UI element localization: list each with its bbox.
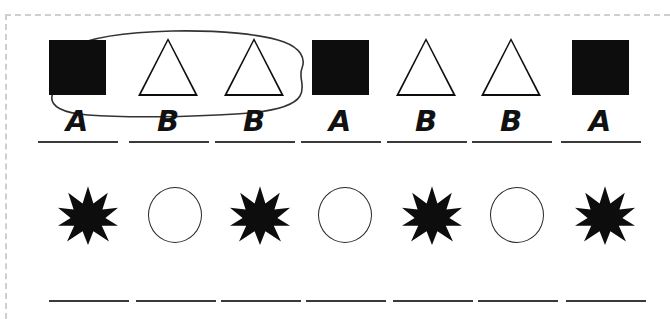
answer-letter <box>562 252 648 286</box>
outline-triangle-icon <box>211 28 297 106</box>
answer-line[interactable] <box>478 300 558 302</box>
pattern-cell: A <box>557 28 643 156</box>
filled-square-icon <box>557 28 643 106</box>
answer-line[interactable] <box>301 141 381 143</box>
answer-line[interactable] <box>472 141 552 143</box>
pattern-cell <box>45 176 131 319</box>
pattern-cell: B <box>125 28 211 156</box>
answer-letter: B <box>125 104 211 138</box>
pattern-cell <box>302 176 388 319</box>
pattern-cell: B <box>468 28 554 156</box>
pattern-cell: B <box>211 28 297 156</box>
outline-circle-icon <box>132 176 218 254</box>
answer-line[interactable] <box>49 300 129 302</box>
pattern-cell <box>389 176 475 319</box>
outline-circle-icon <box>302 176 388 254</box>
filled-star-icon <box>217 176 303 254</box>
answer-line[interactable] <box>221 300 301 302</box>
answer-letter <box>132 252 218 286</box>
answer-letter <box>45 252 131 286</box>
outline-triangle-icon <box>125 28 211 106</box>
answer-letter: B <box>383 104 469 138</box>
filled-square-icon <box>297 28 383 106</box>
filled-star-icon <box>389 176 475 254</box>
filled-star-icon <box>45 176 131 254</box>
answer-line[interactable] <box>129 141 209 143</box>
answer-line[interactable] <box>136 300 216 302</box>
pattern-cell <box>217 176 303 319</box>
answer-letter <box>217 252 303 286</box>
answer-line[interactable] <box>306 300 386 302</box>
pattern-cell: A <box>34 28 120 156</box>
answer-line[interactable] <box>387 141 467 143</box>
pattern-cell <box>474 176 560 319</box>
pattern-cell: A <box>297 28 383 156</box>
answer-letter <box>302 252 388 286</box>
object-pattern-row <box>0 176 670 319</box>
answer-line[interactable] <box>561 141 641 143</box>
outline-triangle-icon <box>468 28 554 106</box>
answer-letter: A <box>557 104 643 138</box>
pattern-cell <box>132 176 218 319</box>
answer-line[interactable] <box>566 300 646 302</box>
answer-letter: A <box>34 104 120 138</box>
filled-star-icon <box>562 176 648 254</box>
answer-letter: B <box>468 104 554 138</box>
filled-square-icon <box>34 28 120 106</box>
answer-line[interactable] <box>38 141 118 143</box>
outline-triangle-icon <box>383 28 469 106</box>
pattern-cell: B <box>383 28 469 156</box>
shape-pattern-row: A B B A B B A <box>0 28 670 156</box>
answer-letter <box>389 252 475 286</box>
answer-letter: B <box>211 104 297 138</box>
page-border-top <box>5 14 670 16</box>
pattern-cell <box>562 176 648 319</box>
answer-line[interactable] <box>393 300 473 302</box>
outline-circle-icon <box>474 176 560 254</box>
answer-line[interactable] <box>215 141 295 143</box>
worksheet-page: A B B A B B A <box>0 0 670 319</box>
answer-letter: A <box>297 104 383 138</box>
answer-letter <box>474 252 560 286</box>
